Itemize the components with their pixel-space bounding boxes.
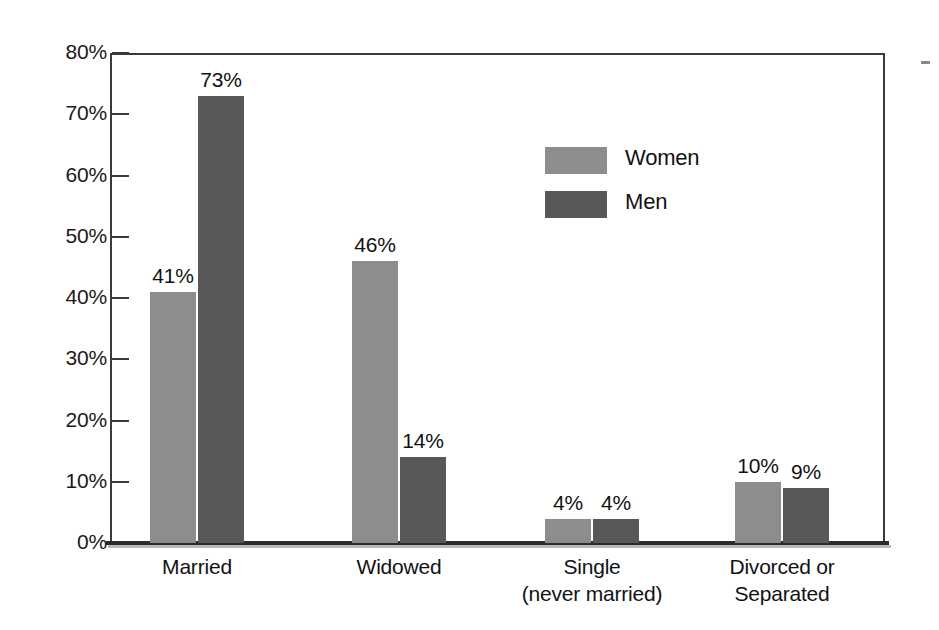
bar-column: 10% — [735, 53, 781, 543]
x-axis-baseline-shadow — [108, 545, 891, 548]
bar-value-label: 73% — [200, 68, 241, 92]
category-label-0: Married — [162, 553, 232, 580]
bar-women-2 — [545, 519, 591, 544]
category-label-line: (never married) — [522, 580, 663, 607]
category-label-line: Widowed — [357, 555, 442, 578]
bar-column: 14% — [400, 53, 446, 543]
category-label-1: Widowed — [357, 553, 442, 580]
bar-value-label: 10% — [737, 454, 778, 478]
category-label-line: Single — [563, 555, 620, 578]
bar-column: 46% — [352, 53, 398, 543]
bar-chart: 80%70%60%50%40%30%20%10%0% 41%73%46%14%4… — [0, 0, 939, 630]
bar-column: 4% — [545, 53, 591, 543]
bar-men-0 — [198, 96, 244, 543]
legend-label-women: Women — [625, 145, 699, 171]
category-label-line: Separated — [729, 580, 834, 607]
bar-value-label: 9% — [791, 460, 821, 484]
legend-swatch-men-icon — [545, 191, 607, 218]
bar-value-label: 46% — [354, 233, 395, 257]
bar-women-1 — [352, 261, 398, 543]
bar-men-3 — [783, 488, 829, 543]
bar-column: 41% — [150, 53, 196, 543]
category-label-line: Married — [162, 555, 232, 578]
category-label-2: Single(never married) — [522, 553, 663, 607]
legend-label-men: Men — [625, 189, 667, 215]
bar-value-label: 14% — [402, 429, 443, 453]
bar-column: 4% — [593, 53, 639, 543]
bar-women-3 — [735, 482, 781, 543]
category-label-3: Divorced orSeparated — [729, 553, 834, 607]
bar-men-2 — [593, 519, 639, 544]
scan-artifact-mark — [921, 61, 930, 64]
bar-men-1 — [400, 457, 446, 543]
bar-column: 9% — [783, 53, 829, 543]
bar-value-label: 41% — [152, 264, 193, 288]
bars-layer: 41%73%46%14%4%4%10%9% — [0, 0, 939, 543]
bar-women-0 — [150, 292, 196, 543]
bar-column: 73% — [198, 53, 244, 543]
bar-value-label: 4% — [553, 491, 583, 515]
category-label-line: Divorced or — [729, 555, 834, 578]
legend-swatch-women-icon — [545, 147, 607, 174]
bar-value-label: 4% — [601, 491, 631, 515]
